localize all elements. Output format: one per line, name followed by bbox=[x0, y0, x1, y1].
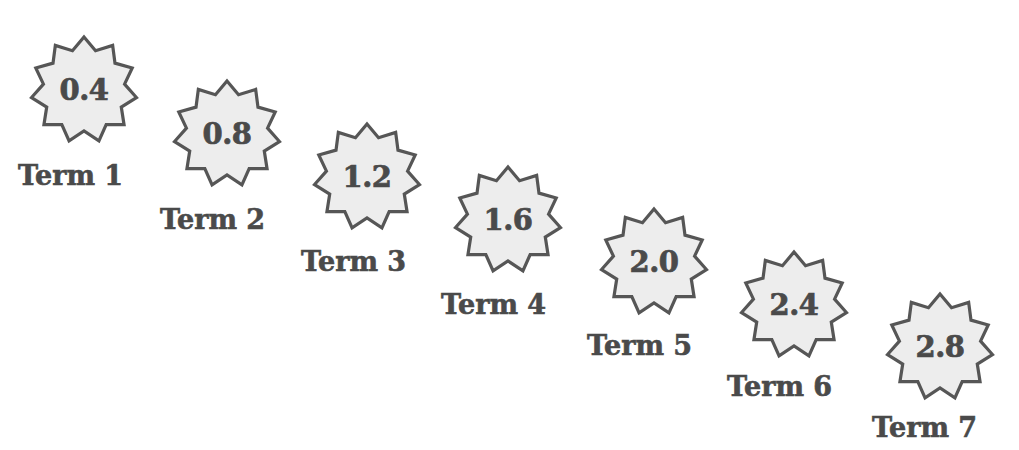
star-badge: 0.8 bbox=[171, 78, 283, 190]
term-label: Term 5 bbox=[587, 330, 692, 361]
star-badge: 0.4 bbox=[28, 34, 140, 146]
starburst-icon bbox=[598, 206, 710, 318]
term-label: Term 3 bbox=[301, 246, 406, 277]
star-badge: 1.6 bbox=[452, 164, 564, 276]
starburst-icon bbox=[452, 164, 564, 276]
starburst-icon bbox=[738, 249, 850, 361]
starburst-icon bbox=[28, 34, 140, 146]
starburst-icon bbox=[884, 291, 996, 403]
sequence-diagram: 0.4Term 10.8Term 21.2Term 31.6Term 42.0T… bbox=[0, 0, 1019, 450]
star-badge: 1.2 bbox=[311, 121, 423, 233]
starburst-icon bbox=[171, 78, 283, 190]
starburst-icon bbox=[311, 121, 423, 233]
term-label: Term 4 bbox=[441, 289, 546, 320]
star-badge: 2.8 bbox=[884, 291, 996, 403]
term-label: Term 2 bbox=[160, 204, 265, 235]
star-badge: 2.0 bbox=[598, 206, 710, 318]
term-label: Term 1 bbox=[18, 160, 123, 191]
star-badge: 2.4 bbox=[738, 249, 850, 361]
term-label: Term 7 bbox=[872, 412, 977, 443]
term-label: Term 6 bbox=[727, 371, 832, 402]
